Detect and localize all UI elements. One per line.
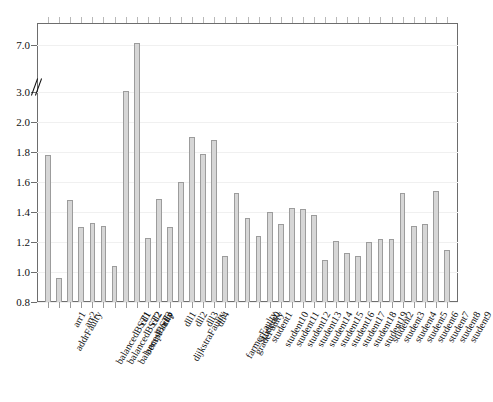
bar-chart: 0.81.01.21.41.61.82.03.07.0 addrFaultyar… bbox=[0, 0, 466, 402]
x-axis: addrFaultyarr1arr2balancedBST1balancedBS… bbox=[0, 0, 466, 402]
